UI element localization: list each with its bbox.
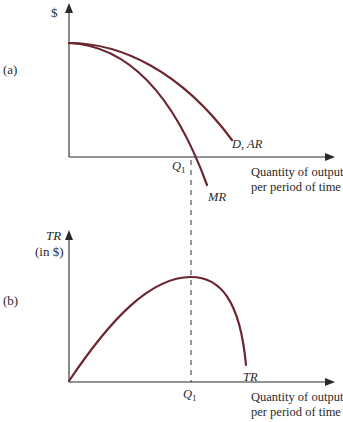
panel-b-label: (b) <box>3 293 18 308</box>
x-axis-label-b-line2: per period of time <box>251 405 341 419</box>
panel-a: (a) $ D, AR MR Q1 Quantity of output per… <box>3 5 343 204</box>
total-revenue-curve <box>69 277 246 381</box>
x-axis-label-a-line2: per period of time <box>251 180 341 194</box>
marginal-revenue-curve <box>69 43 207 185</box>
revenue-diagram: (a) $ D, AR MR Q1 Quantity of output per… <box>0 0 343 422</box>
x-axis-label-a-line1: Quantity of output <box>251 165 343 179</box>
demand-curve <box>69 43 232 140</box>
panel-b: (b) TR (in $) TR Q1 Quantity of output p… <box>3 228 343 419</box>
y-axis-label-tr: TR <box>46 228 61 243</box>
y-axis-label-in-dollars: (in $) <box>35 244 64 259</box>
x-axis-label-b-line1: Quantity of output <box>251 390 343 404</box>
q1-tick-b: Q1 <box>183 387 197 403</box>
y-axis-label-dollar: $ <box>51 5 58 20</box>
panel-a-label: (a) <box>3 62 17 77</box>
mr-curve-label: MR <box>207 190 226 204</box>
demand-curve-label: D, AR <box>231 137 263 151</box>
q1-tick-a: Q1 <box>172 159 186 175</box>
tr-curve-label: TR <box>243 370 258 384</box>
